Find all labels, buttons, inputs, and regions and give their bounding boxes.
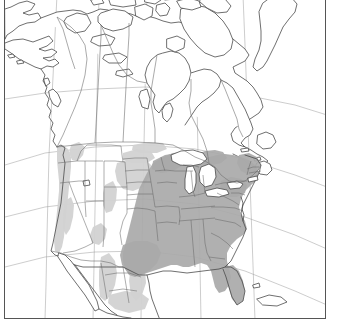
greenland-coastline <box>253 0 297 71</box>
cuba <box>257 295 287 306</box>
lake-athabasca <box>116 69 133 77</box>
anticosti-island <box>241 148 249 152</box>
range-map-figure <box>0 0 337 326</box>
arctic-islet-a <box>91 0 104 5</box>
north-america-map <box>5 0 326 319</box>
baja-california <box>58 253 99 311</box>
state-border-wy-east <box>121 146 123 162</box>
map-frame <box>4 0 326 319</box>
state-border-wy-co <box>104 161 125 162</box>
alaska-coastline <box>5 1 41 39</box>
lake-michigan <box>185 166 196 194</box>
lake-winnipeg <box>139 89 150 109</box>
range-peripheral-front-range <box>103 181 117 213</box>
lake-superior <box>171 150 207 166</box>
range-peripheral-mexico-south <box>108 291 149 313</box>
bathurst-island <box>145 0 161 4</box>
alaska-south-coastline <box>5 36 59 69</box>
somerset-island <box>156 3 170 16</box>
bahamas-speck <box>253 283 260 288</box>
newfoundland <box>257 132 276 149</box>
devon-island <box>177 0 201 10</box>
state-border-nm-tx <box>120 187 127 245</box>
melville-island <box>109 0 136 7</box>
state-border-nv-ut <box>85 161 86 217</box>
mexico-gulf-coast <box>147 275 160 319</box>
state-border-mt-wy <box>87 145 121 146</box>
